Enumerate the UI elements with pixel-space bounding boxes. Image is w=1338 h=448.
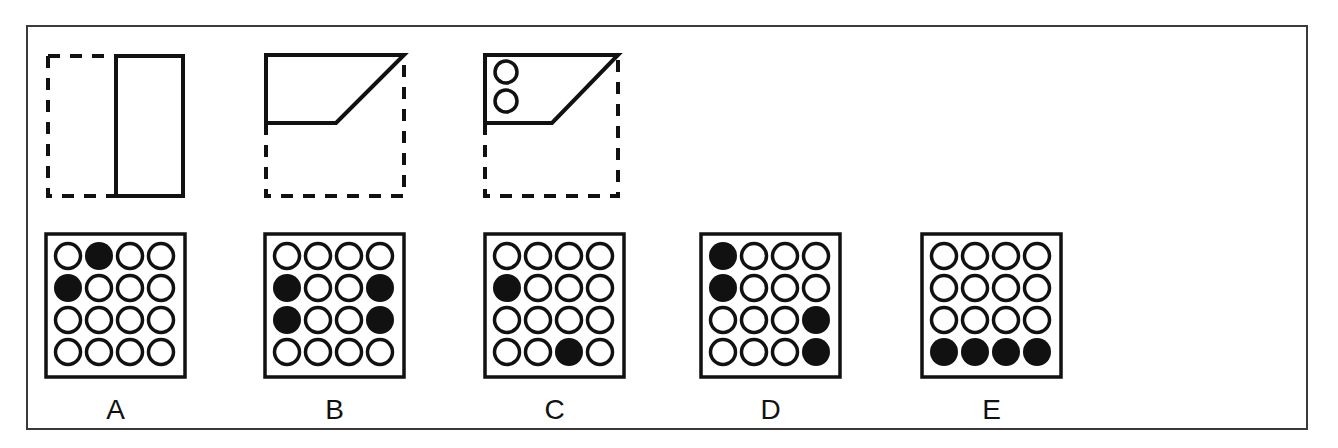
- empty-hole-icon: [306, 308, 331, 333]
- empty-hole-icon: [56, 340, 81, 365]
- option-label[interactable]: B: [305, 394, 365, 426]
- empty-hole-icon: [994, 244, 1019, 269]
- filled-hole-icon: [709, 274, 737, 302]
- empty-hole-icon: [932, 308, 957, 333]
- empty-hole-icon: [118, 276, 143, 301]
- empty-hole-icon: [963, 276, 988, 301]
- empty-hole-icon: [306, 244, 331, 269]
- option-label[interactable]: A: [86, 394, 146, 426]
- empty-hole-icon: [306, 276, 331, 301]
- empty-hole-icon: [337, 308, 362, 333]
- empty-hole-icon: [711, 308, 736, 333]
- empty-hole-icon: [994, 308, 1019, 333]
- empty-hole-icon: [526, 244, 551, 269]
- option-c[interactable]: [485, 234, 624, 377]
- filled-hole-icon: [54, 274, 82, 302]
- empty-hole-icon: [495, 340, 520, 365]
- empty-hole-icon: [526, 276, 551, 301]
- option-a[interactable]: [46, 234, 185, 377]
- empty-hole-icon: [773, 308, 798, 333]
- empty-hole-icon: [773, 244, 798, 269]
- option-d[interactable]: [701, 234, 840, 377]
- empty-hole-icon: [588, 244, 613, 269]
- empty-hole-icon: [87, 340, 112, 365]
- empty-hole-icon: [337, 276, 362, 301]
- empty-hole-icon: [526, 340, 551, 365]
- fold-step-1: [48, 56, 183, 196]
- puzzle-canvas: [0, 0, 1338, 448]
- empty-hole-icon: [588, 340, 613, 365]
- empty-hole-icon: [275, 244, 300, 269]
- empty-hole-icon: [368, 244, 393, 269]
- empty-hole-icon: [368, 340, 393, 365]
- empty-hole-icon: [306, 340, 331, 365]
- empty-hole-icon: [932, 244, 957, 269]
- empty-hole-icon: [118, 244, 143, 269]
- empty-hole-icon: [526, 308, 551, 333]
- empty-hole-icon: [588, 276, 613, 301]
- filled-hole-icon: [992, 338, 1020, 366]
- empty-hole-icon: [495, 244, 520, 269]
- option-label[interactable]: C: [525, 394, 585, 426]
- empty-hole-icon: [932, 276, 957, 301]
- filled-hole-icon: [366, 274, 394, 302]
- empty-hole-icon: [275, 340, 300, 365]
- filled-hole-icon: [85, 242, 113, 270]
- empty-hole-icon: [557, 308, 582, 333]
- empty-hole-icon: [557, 276, 582, 301]
- filled-hole-icon: [802, 306, 830, 334]
- empty-hole-icon: [994, 276, 1019, 301]
- filled-hole-icon: [273, 306, 301, 334]
- empty-hole-icon: [337, 340, 362, 365]
- empty-hole-icon: [1025, 244, 1050, 269]
- empty-hole-icon: [742, 276, 767, 301]
- empty-hole-icon: [56, 244, 81, 269]
- empty-hole-icon: [804, 244, 829, 269]
- empty-hole-icon: [742, 308, 767, 333]
- filled-hole-icon: [930, 338, 958, 366]
- empty-hole-icon: [87, 276, 112, 301]
- punched-hole-icon: [495, 61, 517, 83]
- punched-hole-icon: [495, 90, 517, 112]
- filled-hole-icon: [1023, 338, 1051, 366]
- empty-hole-icon: [118, 308, 143, 333]
- filled-hole-icon: [366, 306, 394, 334]
- empty-hole-icon: [149, 244, 174, 269]
- empty-hole-icon: [1025, 276, 1050, 301]
- empty-hole-icon: [804, 276, 829, 301]
- filled-hole-icon: [493, 274, 521, 302]
- option-label[interactable]: D: [741, 394, 801, 426]
- filled-hole-icon: [555, 338, 583, 366]
- option-b[interactable]: [265, 234, 404, 377]
- empty-hole-icon: [149, 340, 174, 365]
- empty-hole-icon: [149, 276, 174, 301]
- fold-step-3-punched: [485, 55, 618, 196]
- empty-hole-icon: [56, 308, 81, 333]
- filled-hole-icon: [961, 338, 989, 366]
- empty-hole-icon: [557, 244, 582, 269]
- empty-hole-icon: [337, 244, 362, 269]
- empty-hole-icon: [773, 276, 798, 301]
- empty-hole-icon: [742, 340, 767, 365]
- empty-hole-icon: [588, 308, 613, 333]
- filled-hole-icon: [273, 274, 301, 302]
- empty-hole-icon: [711, 340, 736, 365]
- option-e[interactable]: [922, 234, 1061, 377]
- fold-step-2: [266, 55, 404, 196]
- empty-hole-icon: [963, 244, 988, 269]
- empty-hole-icon: [773, 340, 798, 365]
- empty-hole-icon: [118, 340, 143, 365]
- option-label[interactable]: E: [962, 394, 1022, 426]
- answer-options: [46, 234, 1061, 377]
- empty-hole-icon: [495, 308, 520, 333]
- empty-hole-icon: [963, 308, 988, 333]
- empty-hole-icon: [1025, 308, 1050, 333]
- empty-hole-icon: [742, 244, 767, 269]
- filled-hole-icon: [802, 338, 830, 366]
- empty-hole-icon: [149, 308, 174, 333]
- filled-hole-icon: [709, 242, 737, 270]
- empty-hole-icon: [87, 308, 112, 333]
